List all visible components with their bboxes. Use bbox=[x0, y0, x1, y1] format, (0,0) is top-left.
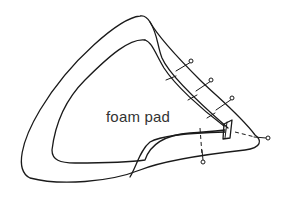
cushion-outer-edge bbox=[21, 16, 259, 182]
foam-pad-label: foam pad bbox=[106, 108, 170, 125]
fold-dashed-line bbox=[235, 132, 255, 137]
foam-pad-diagram bbox=[0, 0, 286, 205]
